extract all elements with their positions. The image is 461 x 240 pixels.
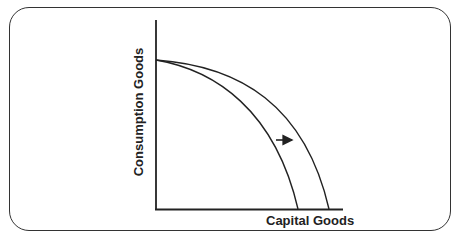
x-axis-label: Capital Goods [266,213,354,228]
original-ppf-curve [156,60,298,209]
ppf-diagram [0,0,461,240]
shifted-ppf-curve [156,60,329,209]
y-axis-label: Consumption Goods [131,48,146,177]
